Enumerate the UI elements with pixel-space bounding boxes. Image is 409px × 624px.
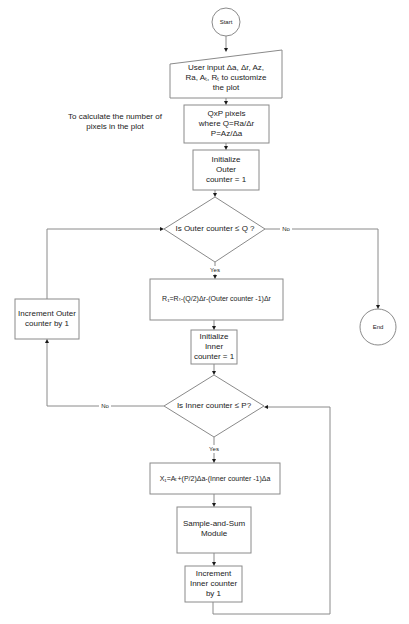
inner-yes-label: Yes [205,445,223,453]
pixels-note: To calculate the number of pixels in the… [55,110,175,134]
decision-inner-label: Is Inner counter ≤ P? [172,400,256,412]
pixels-label: QxP pixels where Q=Ra/Δr P=Az/Δa [184,107,269,141]
input-label: User input Δa, Δr, Az, Ra, Aₜ, Rₜ to cus… [170,60,282,96]
inc-outer-label: Increment Outer counter by 1 [15,301,79,337]
init-outer-label: Initialize Outer counter = 1 [193,152,259,188]
r1-label: R₁=Rₜ-(Q/2)Δr-(Outer counter -1)Δr [150,292,283,306]
outer-no-label: No [280,225,292,233]
decision-outer-label: Is Outer counter ≤ Q ? [172,223,258,235]
outer-yes-label: Yes [206,266,224,274]
end-label: End [366,322,390,332]
init-inner-label: Initialize Inner counter = 1 [191,331,237,363]
x1-label: X₁=Aₜ+(P/2)Δa-(Inner counter -1)Δa [150,472,280,486]
inner-no-label: No [99,402,111,410]
inc-inner-label: Increment Inner counter by 1 [185,567,242,601]
start-label: Start [212,17,240,27]
sample-sum-label: Sample-and-Sum Module [177,512,251,546]
